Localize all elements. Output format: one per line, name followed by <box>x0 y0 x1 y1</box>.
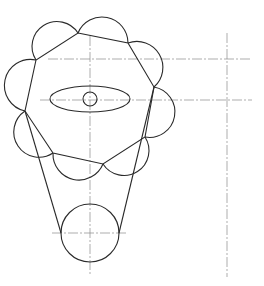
tangent-line-left <box>25 111 61 233</box>
tangent-line-right <box>119 87 154 233</box>
arc-6 <box>53 153 103 180</box>
polygon-outline <box>25 33 154 164</box>
arc-7 <box>14 111 53 157</box>
arc-2 <box>78 17 128 43</box>
arc-5 <box>103 137 149 175</box>
centerlines <box>40 33 252 277</box>
arc-8 <box>4 59 36 111</box>
technical-drawing <box>0 0 264 286</box>
arc-1 <box>32 22 78 60</box>
arc-3 <box>128 41 163 87</box>
